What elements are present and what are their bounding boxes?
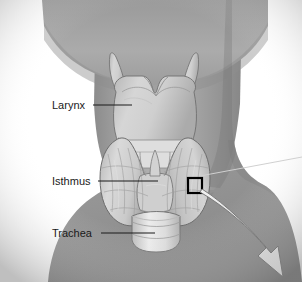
vignette-overlay (0, 0, 302, 282)
label-trachea-text: Trachea (52, 227, 93, 239)
label-larynx-text: Larynx (52, 99, 86, 111)
label-isthmus-text: Isthmus (52, 175, 91, 187)
thyroid-anatomy-figure: Larynx Isthmus Trachea (0, 0, 302, 282)
anatomy-illustration: Larynx Isthmus Trachea (0, 0, 302, 282)
